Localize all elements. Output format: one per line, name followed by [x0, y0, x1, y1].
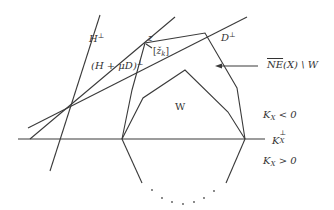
label-h-perp: H⊥: [89, 33, 104, 44]
d-perp-sup: ⊥: [229, 31, 236, 39]
h-mu-d-perp-sup: ⊥: [137, 59, 144, 67]
kx-pos-rest: > 0: [275, 155, 296, 166]
cone-diagram: H⊥ (H + μD)⊥ z [žk] D⊥ NE(X) \ W W KX < …: [0, 0, 334, 210]
z-k-close: ]: [166, 46, 170, 56]
label-w: W: [175, 102, 185, 112]
lower-left-ray: [122, 139, 142, 183]
h-perp-base: H: [89, 33, 98, 44]
d-perp-line: [28, 17, 247, 128]
kx-perp-sub: X: [279, 138, 284, 145]
label-ne-minus-w: NE(X) \ W: [267, 60, 318, 70]
label-z-k: [žk]: [153, 47, 169, 58]
pointer-arrow-head: [215, 64, 222, 69]
dotted-arc: [151, 189, 215, 205]
label-d-perp: D⊥: [221, 32, 236, 43]
h-mu-d-perp-base: (H + μD): [91, 60, 137, 71]
label-kx-positive: KX > 0: [263, 156, 297, 168]
label-z: z: [148, 34, 153, 43]
w-text: W: [175, 101, 185, 112]
label-kx-negative: KX < 0: [263, 110, 297, 122]
ne-rest-text: (X) \ W: [283, 59, 318, 70]
d-perp-base: D: [221, 32, 229, 43]
z-text: z: [148, 33, 153, 43]
ne-overline-text: NE: [267, 59, 283, 70]
label-h-mu-d-perp: (H + μD)⊥: [91, 60, 143, 71]
kx-perp-sup: ⊥: [279, 130, 286, 137]
label-kx-perp: K⊥X: [272, 134, 286, 146]
diagram-lines: [0, 0, 334, 210]
h-perp-sup: ⊥: [98, 32, 105, 40]
kx-neg-rest: < 0: [275, 109, 296, 120]
z-marker-arrow: [146, 44, 152, 48]
lower-right-ray: [226, 139, 245, 183]
